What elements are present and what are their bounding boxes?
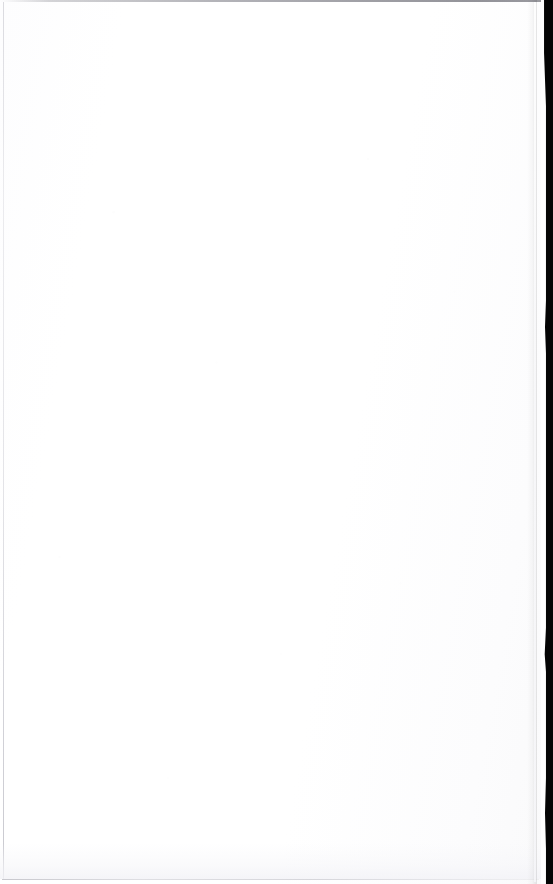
top-edge-line	[0, 0, 541, 2]
left-edge-line	[3, 2, 4, 879]
bottom-edge-line	[2, 879, 539, 880]
bottom-shading	[0, 843, 541, 879]
scanned-page: blank page	[0, 0, 553, 884]
page-curl-highlight	[534, 2, 536, 882]
paper-surface	[0, 0, 541, 884]
